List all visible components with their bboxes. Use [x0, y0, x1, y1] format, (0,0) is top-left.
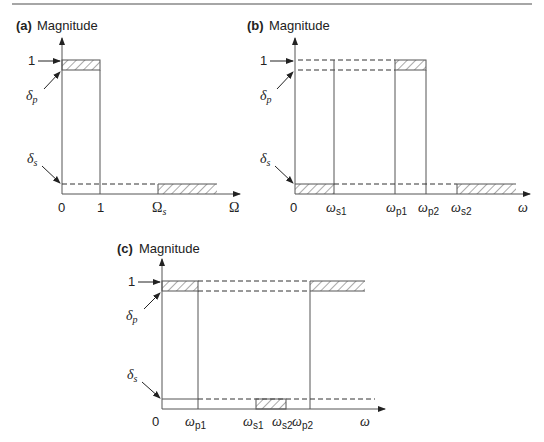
- panel-a-delta-s-label: δs: [27, 151, 38, 168]
- panel-c-x-axis-label: ω: [360, 414, 370, 429]
- panel-b-delta-s-label: δs: [260, 151, 271, 168]
- panel-a-one-label: 1: [28, 53, 35, 68]
- panel-a-delta-p-label: δp: [26, 88, 38, 105]
- panel-c-tick-ws1: ωs1: [243, 414, 264, 431]
- panel-a-passband-tolerance: [62, 60, 100, 70]
- panel-a-tick-omega-s: Ωs: [152, 200, 166, 217]
- panel-b-bandpass: (b) Magnitude 1 δp δs 0 ωs1 ωp1 ωp2 ωs2 …: [247, 18, 530, 217]
- panel-c-one-label: 1: [128, 274, 135, 289]
- panel-a-stopband-tolerance: [158, 184, 217, 194]
- panel-b-tag: (b): [247, 18, 264, 33]
- panel-b-passband-tolerance: [395, 60, 426, 70]
- panel-c-bandstop: (c) Magnitude 1 δp δs 0 ωp1 ωs1 ωs2 ωp2 …: [117, 241, 385, 431]
- panel-c-upper-passband: [310, 281, 365, 291]
- panel-c-tick-wp2: ωp2: [292, 414, 313, 431]
- panel-b-tick-wp2: ωp2: [418, 200, 439, 217]
- panel-b-upper-stopband: [457, 184, 516, 194]
- panel-b-x-axis-label: ω: [518, 200, 528, 215]
- panel-c-lower-passband: [162, 281, 198, 291]
- panel-b-tick-ws2: ωs2: [451, 200, 472, 217]
- panel-c-ylabel: Magnitude: [139, 241, 200, 256]
- panel-a-tick-1: 1: [97, 200, 104, 215]
- panel-b-ylabel: Magnitude: [269, 18, 330, 33]
- panel-b-tick-ws1: ωs1: [326, 200, 347, 217]
- panel-a-tag: (a): [16, 18, 32, 33]
- panel-b-lower-stopband: [295, 184, 334, 194]
- panel-a-lowpass: (a) Magnitude 1 δp δs 0 1 Ωs Ω: [16, 18, 240, 217]
- panel-c-tick-wp1: ωp1: [185, 414, 206, 431]
- panel-c-stopband-tolerance: [256, 399, 286, 409]
- panel-c-tag: (c): [117, 241, 133, 256]
- panel-a-ylabel: Magnitude: [37, 18, 98, 33]
- panel-b-one-label: 1: [260, 53, 267, 68]
- panel-a-x-axis-label: Ω: [229, 200, 239, 215]
- panel-b-tick-0: 0: [290, 200, 297, 215]
- panel-c-delta-s-label: δs: [127, 367, 138, 384]
- panel-b-delta-p-label: δp: [260, 88, 272, 105]
- filter-specification-figure: (a) Magnitude 1 δp δs 0 1 Ωs Ω (b) Magni…: [0, 0, 544, 442]
- panel-b-tick-wp1: ωp1: [386, 200, 407, 217]
- panel-c-tick-ws2: ωs2: [272, 414, 293, 431]
- panel-a-tick-0: 0: [58, 200, 65, 215]
- panel-c-delta-p-label: δp: [126, 308, 138, 325]
- panel-c-tick-0: 0: [152, 414, 159, 429]
